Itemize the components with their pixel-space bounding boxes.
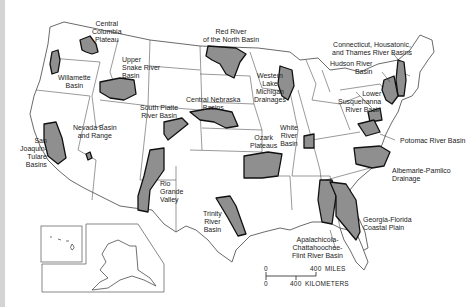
label-rio-grande-valley: RioGrandeValley: [160, 180, 183, 204]
label-potomac-river-basin: Potomac River Basin: [400, 137, 465, 145]
label-apalachicola-chattahoochee-flint: Apalachicola-Chattahoochee-Flint River B…: [292, 236, 343, 260]
label-nevada-basin-and-range: Nevada Basinand Range: [73, 124, 117, 140]
label-san-joaquin-tulare-basins: SanJoaquin-TulareBasins: [20, 137, 47, 169]
scale-miles-value: 400: [310, 265, 321, 272]
scale-km-zero: 0: [264, 280, 268, 287]
hawaii-islands: [50, 237, 74, 250]
label-georgia-florida-coastal-plain: Georgia-FloridaCoastal Plain: [363, 216, 412, 232]
label-central-nebraska-basins: Central NebraskaBasins: [186, 96, 240, 112]
label-connecticut-housatonic-thames: Connecticut, Housatonic,and Thames River…: [332, 41, 412, 57]
basin-willamette: [50, 50, 60, 74]
scale-km-unit: KILOMETERS: [305, 280, 349, 287]
label-red-river-north-basin: Red Riverof the North Basin: [203, 28, 259, 44]
scale-bar: [266, 272, 316, 280]
label-hudson-river-basin: Hudson RiverBasin: [330, 60, 372, 76]
basin-albemarle: [354, 146, 390, 168]
label-ozark-plateaus: OzarkPlateaus: [250, 134, 277, 150]
label-white-river-basin: WhiteRiverBasin: [280, 124, 298, 148]
label-upper-snake-river-basin: UpperSnake RiverBasin: [122, 56, 160, 80]
label-trinity-river-basin: TrinityRiverBasin: [203, 210, 222, 234]
scale-miles-unit: MILES: [325, 265, 346, 272]
basin-ozark: [244, 152, 282, 178]
label-south-platte-river-basin: South PlatteRiver Basin: [140, 104, 178, 120]
basin-white-river: [304, 134, 314, 148]
label-western-lake-michigan-drainages: WesternLakeMichiganDrainages: [254, 72, 286, 104]
label-central-columbia-plateau: CentralColumbiaPlateau: [92, 20, 122, 44]
hawaii-inset-frame: [41, 226, 82, 262]
alaska-inset-frame: [42, 224, 164, 292]
label-lower-susquehanna-river-basin: LowerSusquehannaRiver Basin: [338, 90, 381, 114]
scale-km-value: 400: [290, 280, 301, 287]
label-willamette-basin: WillametteBasin: [58, 74, 91, 90]
scale-miles-zero: 0: [264, 265, 268, 272]
alaska-outline: [92, 240, 156, 290]
label-albemarle-pamlico-drainage: Albemarle-PamlicoDrainage: [392, 167, 451, 183]
